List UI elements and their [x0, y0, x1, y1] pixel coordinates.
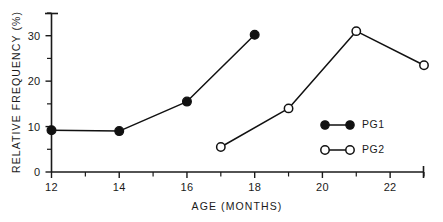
data-point-pg2	[284, 104, 292, 112]
legend-marker-end-pg2	[346, 146, 354, 154]
data-point-pg1	[47, 126, 56, 135]
x-axis-tick-labels: 121416182022	[45, 181, 396, 193]
x-tick-label: 18	[248, 181, 261, 193]
data-point-pg2	[420, 61, 428, 69]
legend-entry-pg1: PG1	[321, 118, 385, 130]
chart-figure: 0102030 RELATIVE FREQUENCY (%) 121416182…	[0, 0, 443, 222]
line-chart-canvas: 0102030 RELATIVE FREQUENCY (%) 121416182…	[0, 0, 443, 222]
data-point-pg2	[352, 27, 360, 35]
series-plot-area	[47, 27, 428, 151]
y-axis-group: 0102030 RELATIVE FREQUENCY (%)	[10, 11, 58, 178]
legend-marker-start-pg2	[321, 146, 329, 154]
x-axis-title: AGE (MONTHS)	[192, 200, 283, 212]
legend: PG1 PG2	[321, 118, 385, 155]
series-line-pg1	[52, 35, 255, 131]
y-axis-tick-labels: 0102030	[28, 30, 41, 178]
y-axis-ticks	[46, 13, 52, 172]
x-tick-label: 16	[181, 181, 194, 193]
legend-marker-end-pg1	[346, 121, 354, 129]
y-tick-label: 10	[28, 121, 41, 133]
legend-label-pg1: PG1	[362, 118, 385, 130]
x-tick-label: 12	[45, 181, 58, 193]
y-tick-label: 30	[28, 30, 41, 42]
y-axis-title: RELATIVE FREQUENCY (%)	[10, 11, 22, 173]
data-point-pg2	[217, 143, 225, 151]
data-point-pg1	[183, 97, 192, 106]
legend-marker-start-pg1	[321, 121, 329, 129]
legend-label-pg2: PG2	[362, 143, 385, 155]
y-tick-label: 20	[28, 75, 41, 87]
x-tick-label: 22	[384, 181, 397, 193]
x-axis-ticks	[52, 172, 425, 178]
x-axis-group: 121416182022 AGE (MONTHS)	[45, 166, 424, 212]
legend-entry-pg2: PG2	[321, 143, 385, 155]
x-tick-label: 14	[113, 181, 126, 193]
data-point-pg1	[250, 30, 259, 39]
series-markers-pg2	[217, 27, 429, 151]
x-tick-label: 20	[316, 181, 329, 193]
series-markers-pg1	[47, 30, 259, 135]
series-line-pg2	[221, 31, 424, 147]
data-point-pg1	[115, 127, 124, 136]
y-tick-label: 0	[34, 166, 40, 178]
